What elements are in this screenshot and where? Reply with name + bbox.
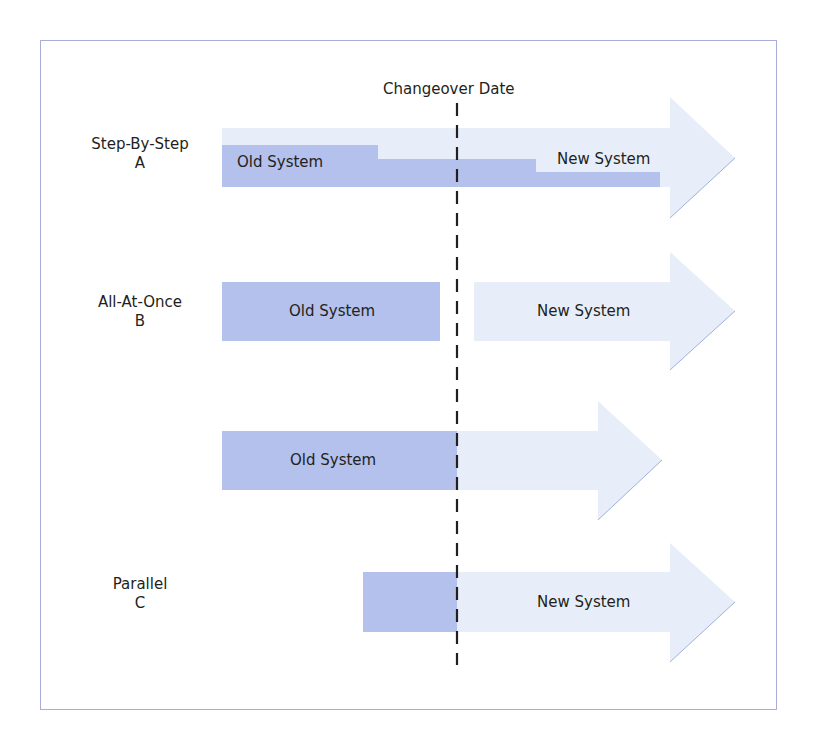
row-label-a: Step-By-Step A [70, 135, 210, 173]
row-letter-c: C [70, 594, 210, 613]
new-system-arrow-c1 [457, 401, 662, 520]
row-label-b: All-At-Once B [70, 293, 210, 331]
old-system-label-b: Old System [289, 302, 375, 320]
row-letter-b: B [70, 312, 210, 331]
row-name-c: Parallel [70, 575, 210, 594]
new-system-label-a: New System [557, 150, 650, 168]
old-system-label-c1: Old System [290, 451, 376, 469]
parallel-old-row [222, 401, 662, 520]
old-system-label-a: Old System [237, 153, 323, 171]
row-name-b: All-At-Once [70, 293, 210, 312]
row-letter-a: A [70, 154, 210, 173]
row-label-c: Parallel C [70, 575, 210, 613]
new-system-label-b: New System [537, 302, 630, 320]
new-system-label-c2: New System [537, 593, 630, 611]
changeover-date-title: Changeover Date [383, 80, 515, 98]
row-name-a: Step-By-Step [70, 135, 210, 154]
old-system-box-c2 [363, 572, 457, 632]
changeover-diagram [0, 0, 816, 747]
